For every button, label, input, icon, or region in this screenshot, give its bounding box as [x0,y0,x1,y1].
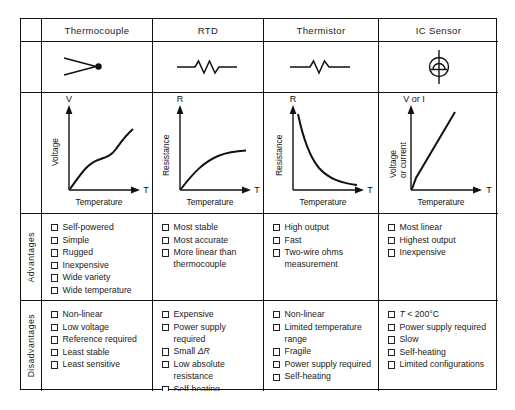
checkbox-icon[interactable] [162,348,169,355]
x-axis-label: Temperature [75,197,122,207]
checklist-item-label: Most stable [174,221,259,233]
checkbox-icon[interactable] [162,224,169,231]
graph-cell-rtd: R T Resistance Temperature [153,93,264,214]
checklist-item[interactable]: Self-powered [51,221,148,233]
checkbox-icon[interactable] [388,224,395,231]
checklist-item[interactable]: Self-heating [162,383,259,391]
checkbox-icon[interactable] [51,361,58,368]
checklist-item[interactable]: High output [273,221,374,233]
checklist-item[interactable]: Slow [388,333,494,345]
checkbox-icon[interactable] [51,311,58,318]
checkbox-icon[interactable] [162,237,169,244]
checklist-item-label: Power supply required [285,358,374,370]
symbol-cell-thermistor [264,42,379,93]
checklist-item[interactable]: Limited configurations [388,358,494,370]
checkbox-icon[interactable] [273,348,280,355]
checkbox-icon[interactable] [273,224,280,231]
x-axis-symbol: T [486,185,492,195]
checklist-item[interactable]: Self-heating [273,370,374,382]
disadvantages-cell-ic-sensor: T < 200°CPower supply requiredSlowSelf-h… [379,301,498,391]
checklist-item[interactable]: Most stable [162,221,259,233]
data-curve [412,112,455,189]
checklist-item[interactable]: Highest output [388,234,494,246]
checklist-item[interactable]: Most linear [388,221,494,233]
checklist-item-label: Self-heating [174,383,259,391]
checklist: ExpensivePower supply requiredSmall ΔRLo… [153,301,263,391]
checklist-item[interactable]: Simple [51,234,148,246]
y-axis-symbol: R [177,94,184,104]
checklist-item[interactable]: Wide variety [51,271,148,283]
checklist-item[interactable]: Low voltage [51,321,148,333]
checklist-item[interactable]: Fragile [273,345,374,357]
checklist-item[interactable]: Least sensitive [51,358,148,370]
thermocouple-symbol [60,50,134,84]
data-curve [181,151,246,190]
checklist-item-label: Fragile [285,345,374,357]
checklist-item[interactable]: T < 200°C [388,308,494,320]
chart-rtd: R T Resistance Temperature [154,94,262,212]
checkbox-icon[interactable] [162,386,169,391]
checklist-item[interactable]: Low absolute resistance [162,358,259,382]
checkbox-icon[interactable] [51,287,58,294]
sensor-comparison-table: Thermocouple RTD Thermistor IC Sensor [20,18,497,390]
table-corner-blank-left [21,19,42,42]
checkbox-icon[interactable] [51,349,58,356]
checklist-item[interactable]: Inexpensive [51,259,148,271]
checkbox-icon[interactable] [51,336,58,343]
checkbox-icon[interactable] [388,249,395,256]
checklist-item-label: Reference required [63,333,148,345]
checkbox-icon[interactable] [51,324,58,331]
checklist-item[interactable]: Non-linear [273,308,374,320]
graph-cell-thermocouple: V T Voltage Temperature [42,93,153,214]
checkbox-icon[interactable] [162,249,169,256]
checkbox-icon[interactable] [51,262,58,269]
checklist-item-label: Low absolute resistance [174,358,259,382]
checkbox-icon[interactable] [388,361,395,368]
checkbox-icon[interactable] [388,237,395,244]
x-axis-label: Temperature [417,197,464,207]
checkbox-icon[interactable] [51,224,58,231]
column-header-label: IC Sensor [416,25,461,36]
checkbox-icon[interactable] [388,349,395,356]
checkbox-icon[interactable] [51,237,58,244]
checkbox-icon[interactable] [273,324,280,331]
checklist-item[interactable]: Limited temperature range [273,321,374,345]
checkbox-icon[interactable] [51,249,58,256]
checklist-item-label: Simple [63,234,148,246]
checklist-item[interactable]: More linear than thermocouple [162,246,259,270]
checklist-item[interactable]: Rugged [51,246,148,258]
checklist-item[interactable]: Reference required [51,333,148,345]
column-header-rtd: RTD [153,19,264,42]
checklist-item[interactable]: Wide temperature range [51,284,148,301]
checklist-item[interactable]: Non-linear [51,308,148,320]
y-axis-label: Voltage [50,138,60,166]
checkbox-icon[interactable] [273,237,280,244]
checklist-item[interactable]: Most accurate [162,234,259,246]
checkbox-icon[interactable] [388,311,395,318]
checklist-item[interactable]: Expensive [162,308,259,320]
advantages-cell-thermistor: High outputFastTwo-wire ohms measurement [264,214,379,301]
checkbox-icon[interactable] [273,374,280,381]
checkbox-icon[interactable] [273,311,280,318]
checkbox-icon[interactable] [51,274,58,281]
checkbox-icon[interactable] [388,324,395,331]
checklist-item[interactable]: Power supply required [162,321,259,345]
column-header-label: Thermistor [297,25,346,36]
checkbox-icon[interactable] [162,361,169,368]
checklist-item[interactable]: Power supply required [273,358,374,370]
symbol-cell-ic-sensor [379,42,498,93]
checkbox-icon[interactable] [388,336,395,343]
checkbox-icon[interactable] [273,361,280,368]
checklist-item[interactable]: Small ΔR [162,345,259,357]
checkbox-icon[interactable] [162,324,169,331]
checklist-item[interactable]: Fast [273,234,374,246]
disadvantages-cell-rtd: ExpensivePower supply requiredSmall ΔRLo… [153,301,264,391]
checklist-item[interactable]: Least stable [51,346,148,358]
checklist-item[interactable]: Power supply required [388,321,494,333]
checklist-item[interactable]: Inexpensive [388,246,494,258]
checklist-item[interactable]: Self-heating [388,346,494,358]
checkbox-icon[interactable] [162,311,169,318]
checkbox-icon[interactable] [273,249,280,256]
row-label-disadvantages: Disadvantages [21,301,42,391]
checklist-item[interactable]: Two-wire ohms measurement [273,246,374,270]
